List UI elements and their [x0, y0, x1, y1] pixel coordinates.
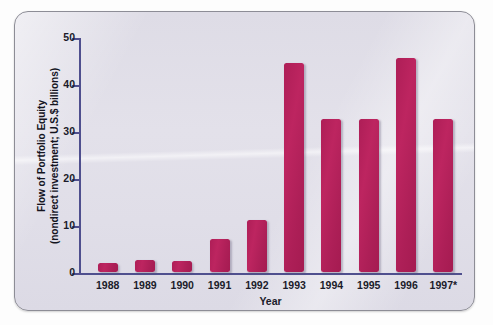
bar — [135, 260, 155, 272]
y-axis-line — [79, 38, 81, 275]
chart-panel: Flow of Portfolio Equity (nondirect inve… — [14, 11, 475, 311]
bar — [284, 63, 304, 272]
bar — [359, 119, 379, 272]
bar — [98, 263, 118, 272]
plot-area: 01020304050 1988198919901991199219931994… — [79, 38, 462, 274]
bar — [210, 239, 230, 272]
y-axis-tick-label: 30 — [63, 125, 75, 138]
x-axis-line — [79, 273, 462, 275]
bar — [396, 58, 416, 272]
y-axis-title-line1: Flow of Portfolio Equity — [36, 100, 47, 212]
y-axis-tick-label: 40 — [63, 78, 75, 91]
bar — [433, 119, 453, 272]
y-axis-tick-label: 50 — [63, 31, 75, 44]
y-axis-title-line2: (nondirect investment; U.S.$ billions) — [49, 68, 60, 244]
x-axis-tick-label: 1997* — [418, 279, 468, 291]
y-axis-tick-label: 20 — [63, 172, 75, 185]
y-axis-title: Flow of Portfolio Equity (nondirect inve… — [28, 38, 68, 274]
bar — [321, 119, 341, 272]
y-axis-tick-label: 10 — [63, 219, 75, 232]
bar — [172, 261, 192, 272]
y-axis-tick-label: 0 — [69, 266, 75, 279]
figure-root: Flow of Portfolio Equity (nondirect inve… — [0, 0, 493, 325]
x-axis-title: Year — [79, 295, 462, 307]
bar — [247, 220, 267, 272]
